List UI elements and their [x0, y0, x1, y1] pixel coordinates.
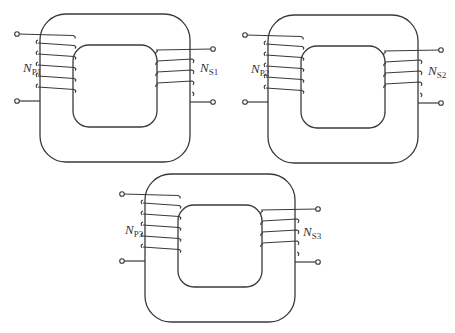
transformer-3: NP3 NS3 [120, 174, 322, 322]
secondary-label-1: NS1 [199, 60, 218, 77]
transformer-diagram: NP1 NS1 NP2 NS2 NP3 NS3 [0, 0, 455, 333]
secondary-label-3: NS3 [302, 224, 322, 241]
primary-label-2: NP2 [250, 61, 269, 78]
transformer-1: NP1 NS1 [15, 14, 218, 162]
transformer-2: NP2 NS2 [243, 15, 446, 163]
secondary-label-2: NS2 [427, 63, 446, 80]
primary-label-1: NP1 [22, 60, 41, 77]
